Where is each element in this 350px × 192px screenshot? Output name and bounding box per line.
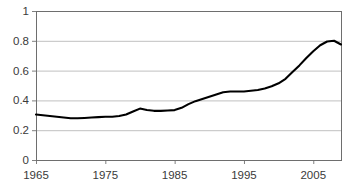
- x-tick-label: 1995: [231, 169, 257, 181]
- line-chart: 00.20.40.60.81 19651975198519952005: [0, 0, 350, 192]
- x-tick-label: 1965: [23, 169, 49, 181]
- x-axis-labels: 19651975198519952005: [0, 0, 350, 192]
- x-tick-label: 1985: [162, 169, 188, 181]
- x-tick-label: 2005: [300, 169, 326, 181]
- x-tick-label: 1975: [93, 169, 119, 181]
